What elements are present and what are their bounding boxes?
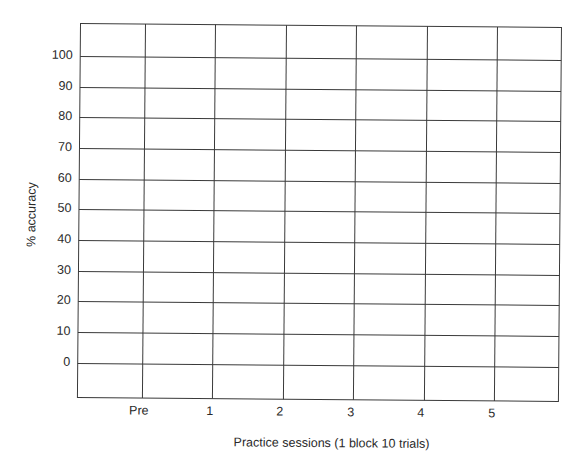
y-tick-label: 70 — [32, 140, 72, 154]
x-tick-label: 4 — [401, 406, 441, 420]
x-tick-label: 1 — [190, 404, 230, 418]
grid-hline — [80, 57, 561, 61]
grid-hline — [78, 271, 559, 275]
y-axis-title: % accuracy — [24, 182, 39, 247]
grid-vline — [142, 24, 145, 398]
grid-hline — [78, 332, 559, 336]
chart-grid — [0, 0, 583, 460]
y-tick-label: 30 — [31, 263, 71, 277]
x-tick-label: 5 — [472, 406, 512, 420]
grid-vline — [424, 26, 427, 400]
x-tick-label: 3 — [331, 405, 371, 419]
grid-vline — [212, 25, 215, 399]
grid-hline — [78, 301, 559, 305]
grid-hline — [80, 118, 561, 122]
grid-hline — [79, 148, 560, 152]
grid-hline — [79, 240, 560, 244]
grid-vline — [494, 27, 497, 401]
y-tick-label: 0 — [30, 355, 70, 369]
grid-hline — [79, 209, 560, 213]
y-tick-label: 20 — [31, 293, 71, 307]
grid-hline — [78, 363, 559, 367]
y-tick-label: 90 — [32, 79, 72, 93]
y-tick-label: 10 — [30, 324, 70, 338]
grid-vline — [283, 25, 286, 399]
grid-hline — [79, 179, 560, 183]
y-tick-label: 100 — [33, 48, 73, 62]
y-tick-label: 80 — [32, 109, 72, 123]
x-tick-label: 2 — [260, 404, 300, 418]
grid-hline — [80, 88, 561, 92]
chart: 100 90 80 70 60 50 40 30 20 10 0 Pre 1 2… — [0, 0, 583, 460]
grid-vline — [353, 26, 356, 400]
x-tick-label: Pre — [119, 403, 159, 417]
x-axis-title: Practice sessions (1 block 10 trials) — [234, 435, 430, 451]
